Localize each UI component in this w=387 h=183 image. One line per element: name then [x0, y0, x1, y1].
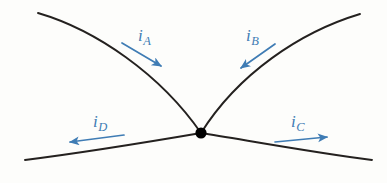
- wire-upper-right: [201, 14, 360, 133]
- current-d-subscript: D: [98, 120, 108, 134]
- wire-upper-left: [38, 13, 201, 133]
- current-a-label: iA: [138, 27, 151, 48]
- current-b-label: iB: [246, 27, 259, 48]
- current-arrow-group: [70, 43, 327, 142]
- wire-lower-right: [201, 133, 372, 160]
- current-c-subscript: C: [296, 120, 305, 134]
- current-d-arrow: [70, 135, 124, 142]
- current-c-label: iC: [291, 113, 305, 134]
- junction-node: [195, 127, 206, 138]
- current-c-arrow: [275, 137, 327, 142]
- current-a-subscript: A: [143, 34, 151, 48]
- current-d-label: iD: [93, 113, 107, 134]
- current-b-subscript: B: [251, 34, 259, 48]
- current-junction-figure: iA iB iC iD: [0, 0, 387, 183]
- figure-canvas: [0, 0, 387, 183]
